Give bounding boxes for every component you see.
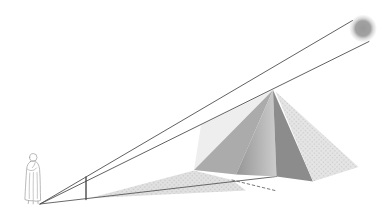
- thales-pyramid-shadow-diagram: [0, 0, 391, 223]
- pyramid-cast-shadow: [89, 171, 246, 199]
- thales-folded-arm: [27, 163, 36, 171]
- thales-figure: [25, 154, 41, 204]
- sun-icon: [349, 15, 377, 43]
- thales-head: [30, 154, 37, 162]
- thales-robe-folds: [29, 173, 37, 200]
- diagram-canvas: [0, 0, 391, 223]
